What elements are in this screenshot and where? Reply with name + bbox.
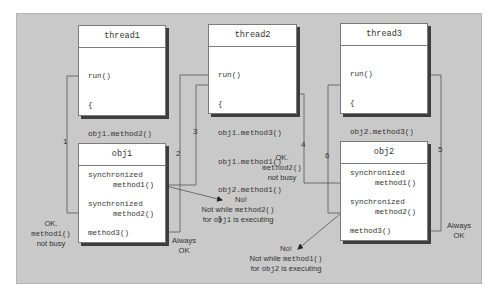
thread3-title: thread3 <box>341 24 427 46</box>
thread2-box: thread2 run() { obj1.method3() obj1.meth… <box>208 24 297 114</box>
obj1-box: obj1 synchronized method1() synchronized… <box>78 143 166 243</box>
obj1-method1: method1() <box>113 181 154 189</box>
note-no-obj1: No! Not while method2() for obj1 is exec… <box>190 195 286 225</box>
obj1-method3: method3() <box>88 229 129 237</box>
connector-3 <box>166 85 210 185</box>
obj1-title: obj1 <box>79 144 165 166</box>
note-no-obj2: No! Not while method1() for obj2 is exec… <box>238 244 334 274</box>
obj2-sync2: synchronized <box>350 198 405 206</box>
thread2-title: thread2 <box>209 25 296 47</box>
obj1-sync1: synchronized <box>88 171 143 179</box>
connector-label-5: 5 <box>438 145 442 154</box>
note-always-ok-obj1: Always OK <box>168 236 200 256</box>
obj2-method2: method2() <box>375 208 416 216</box>
obj1-sync2: synchronized <box>88 200 143 208</box>
thread3-box: thread3 run() { obj2.method3() obj2.meth… <box>340 23 428 114</box>
connector-label-6: 6 <box>325 151 329 160</box>
obj2-method3: method3() <box>350 227 391 235</box>
obj1-method2: method2() <box>113 210 154 218</box>
thread1-box: thread1 run() { obj1.method2() } <box>78 25 166 116</box>
note-always-ok-obj2: Always OK <box>443 221 475 241</box>
connector-label-4: 4 <box>301 140 305 149</box>
note-ok-method2: OK. method2() not busy <box>253 153 311 183</box>
connector-label-1: 1 <box>63 137 67 146</box>
obj2-title: obj2 <box>341 142 427 164</box>
note-ok-method1: OK. method1() not busy <box>22 219 80 249</box>
thread1-title: thread1 <box>79 26 165 48</box>
connector-label-2: 2 <box>176 149 180 158</box>
obj2-box: obj2 synchronized method1() synchronized… <box>340 141 428 241</box>
obj2-sync1: synchronized <box>350 169 405 177</box>
obj2-method1: method1() <box>375 179 416 187</box>
connector-label-3: 3 <box>193 127 197 136</box>
